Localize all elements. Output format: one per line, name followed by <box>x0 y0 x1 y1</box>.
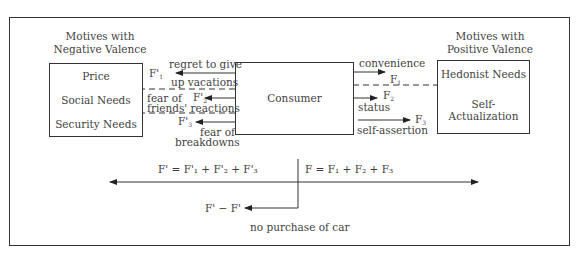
force-pos-2-text: status <box>358 101 390 113</box>
force-neg-2-text-b: friends' reactions <box>147 102 240 114</box>
force-pos-1-label: F1 <box>390 73 401 89</box>
force-pos-3-text: self-assertion <box>357 124 428 136</box>
force-neg-3-label: F'3 <box>178 115 192 131</box>
consumer-box: Consumer <box>235 62 354 135</box>
negative-heading-line2: Negative Valence <box>50 43 150 55</box>
positive-motives-box: Hedonist Needs Self-Actualization <box>437 60 530 134</box>
motive-self-actualization: Self-Actualization <box>438 98 529 122</box>
positive-heading-line2: Positive Valence <box>440 43 540 55</box>
motive-hedonist-needs: Hedonist Needs <box>438 68 529 80</box>
result-formula: F' − F' <box>205 202 241 214</box>
force-neg-1-text-a: regret to give <box>169 58 242 70</box>
sum-negative-formula: F' = F'₁ + F'₂ + F'₃ <box>158 163 258 175</box>
force-neg-1-text-b: up vacations <box>171 76 238 88</box>
motive-security-needs: Security Needs <box>50 118 142 130</box>
force-neg-1-label: F'1 <box>149 67 163 83</box>
positive-heading-line1: Motives with <box>445 30 535 42</box>
motive-social-needs: Social Needs <box>50 94 142 106</box>
negative-heading-line1: Motives with <box>55 30 145 42</box>
negative-motives-box: Price Social Needs Security Needs <box>49 63 143 137</box>
force-neg-3-text-b: breakdowns <box>175 136 240 148</box>
motive-price: Price <box>50 70 142 82</box>
sum-positive-formula: F = F₁ + F₂ + F₃ <box>305 163 393 175</box>
consumer-label: Consumer <box>236 92 353 104</box>
result-text: no purchase of car <box>250 221 349 233</box>
force-pos-1-text: convenience <box>359 57 425 69</box>
